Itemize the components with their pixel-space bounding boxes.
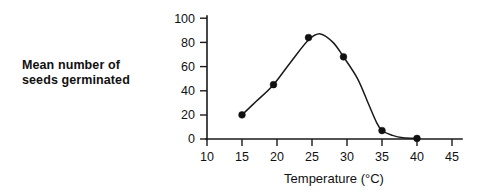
x-tick-label-35: 35: [375, 150, 389, 164]
y-tick-label-40: 40: [181, 84, 195, 98]
y-tick-label-80: 80: [181, 36, 195, 50]
y-tick-label-0: 0: [188, 132, 195, 146]
y-tick-marks: [200, 18, 207, 139]
x-axis-title: Temperature (°C): [284, 171, 384, 186]
data-point: [379, 127, 386, 134]
y-tick-label-60: 60: [181, 60, 195, 74]
x-tick-label-40: 40: [410, 150, 424, 164]
x-tick-label-25: 25: [305, 150, 319, 164]
x-tick-label-15: 15: [235, 150, 249, 164]
x-tick-label-45: 45: [445, 150, 459, 164]
data-point: [414, 135, 421, 142]
y-tick-label-100: 100: [174, 12, 195, 26]
data-point-markers: [239, 34, 421, 142]
y-axis-title: Mean number of seeds germinated: [22, 58, 182, 89]
x-tick-label-10: 10: [200, 150, 214, 164]
data-point: [305, 34, 312, 41]
seed-germination-plot: 100 80 60 40 20 0 10 15 20 25 30 35 40: [0, 0, 482, 194]
y-tick-label-20: 20: [181, 108, 195, 122]
data-point: [270, 81, 277, 88]
x-tick-label-20: 20: [270, 150, 284, 164]
y-axis-title-line-1: Mean number of: [22, 58, 182, 73]
chart-figure: Mean number of seeds germinated 100 80 6…: [0, 0, 482, 194]
x-tick-labels: 10 15 20 25 30 35 40 45: [200, 150, 459, 164]
data-curve: [242, 34, 417, 139]
y-axis-title-line-2: seeds germinated: [22, 73, 182, 88]
data-point: [239, 111, 246, 118]
x-tick-label-30: 30: [340, 150, 354, 164]
data-point: [340, 53, 347, 60]
